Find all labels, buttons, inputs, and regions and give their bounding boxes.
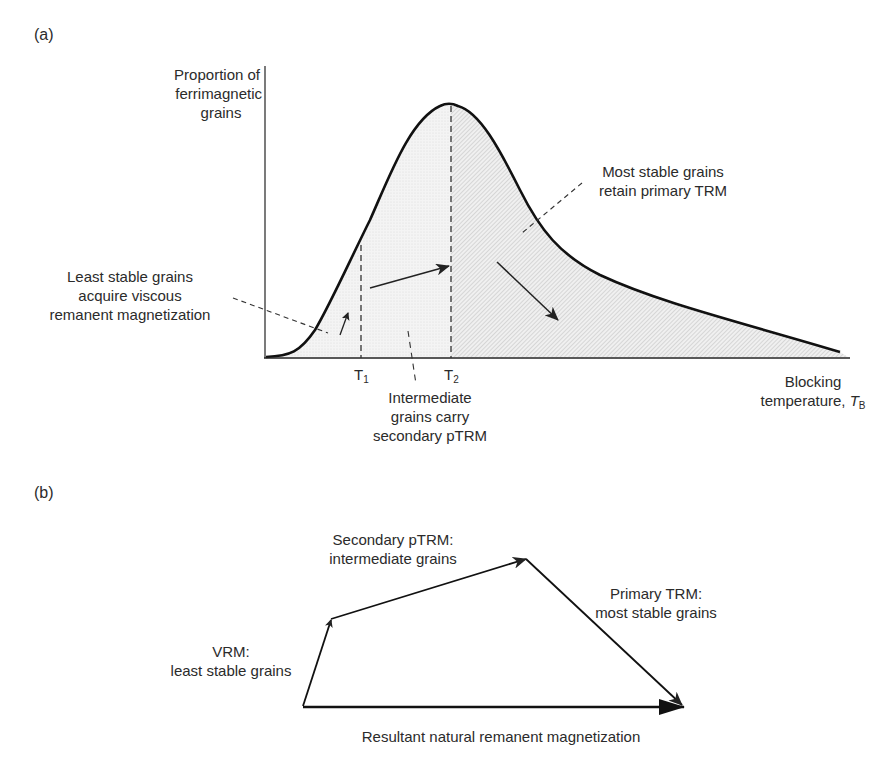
vrm-vector	[303, 620, 331, 706]
panel-b-label: (b)	[34, 484, 54, 502]
annotation-line: Intermediate	[355, 388, 505, 407]
annotation-line: Least stable grains	[30, 267, 230, 286]
x-axis-label-line: temperature, TB	[748, 391, 878, 415]
label-line: Secondary pTRM:	[318, 530, 468, 549]
intermediate-annotation: Intermediate grains carry secondary pTRM	[355, 388, 505, 445]
least-stable-leader	[233, 298, 328, 333]
tick-t2: T2	[444, 366, 459, 385]
label-line: intermediate grains	[318, 549, 468, 568]
label-line: most stable grains	[586, 603, 726, 622]
y-axis-label-line: Proportion of	[150, 65, 260, 84]
y-axis-label-line: ferrimagnetic	[150, 84, 262, 103]
least-stable-annotation: Least stable grains acquire viscous rema…	[30, 267, 230, 324]
secondary-ptrm-label: Secondary pTRM: intermediate grains	[318, 530, 468, 568]
tick-t1: T1	[354, 366, 369, 385]
primary-trm-label: Primary TRM: most stable grains	[586, 584, 726, 622]
secondary-ptrm-vector	[331, 559, 526, 619]
annotation-line: acquire viscous	[30, 286, 230, 305]
label-line: Primary TRM:	[586, 584, 726, 603]
annotation-line: Most stable grains	[588, 162, 738, 181]
primary-trm-vector	[526, 559, 682, 705]
x-axis-label: Blocking temperature, TB	[748, 372, 878, 415]
label-line: least stable grains	[156, 661, 306, 680]
annotation-line: remanent magnetization	[30, 305, 230, 324]
label-line: VRM:	[156, 642, 306, 661]
y-axis-label-line: grains	[150, 103, 260, 122]
y-axis-label: Proportion of ferrimagnetic grains	[150, 65, 260, 122]
panel-a-label: (a)	[34, 26, 54, 44]
x-axis-label-line: Blocking	[748, 372, 878, 391]
annotation-line: secondary pTRM	[355, 426, 505, 445]
resultant-nrm-label: Resultant natural remanent magnetization	[296, 727, 706, 746]
most-stable-annotation: Most stable grains retain primary TRM	[588, 162, 738, 200]
annotation-line: grains carry	[355, 407, 505, 426]
vrm-label: VRM: least stable grains	[156, 642, 306, 680]
annotation-line: retain primary TRM	[588, 181, 738, 200]
